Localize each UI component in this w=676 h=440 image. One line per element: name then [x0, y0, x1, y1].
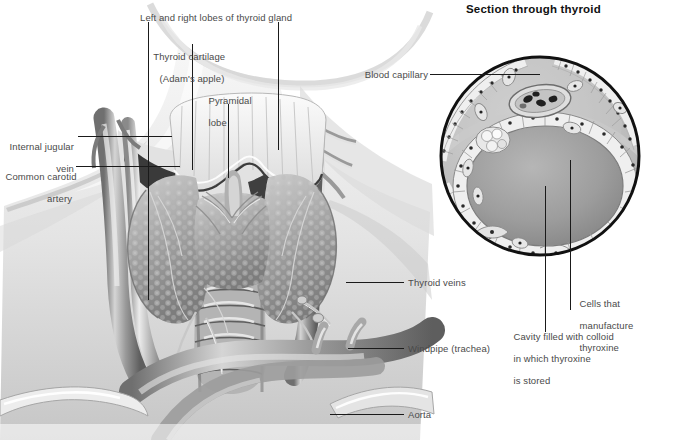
label-thyroid-cartilage-line2: (Adam's apple): [153, 73, 224, 84]
thyroid-section-inset: [438, 54, 642, 268]
label-pyramidal-lobe-line1: Pyramidal: [208, 95, 251, 106]
label-cavity-line1: Cavity filled with colloid: [513, 331, 613, 342]
label-cells-line1: Cells that: [579, 298, 620, 309]
label-blood-capillary: Blood capillary: [330, 69, 428, 80]
label-pyramidal-lobe-line2: lobe: [208, 117, 226, 128]
label-common-carotid-artery: Common carotid artery: [0, 160, 72, 204]
label-thyroid-lobes: Left and right lobes of thyroid gland: [140, 12, 292, 23]
label-common-carotid-line1: Common carotid: [5, 171, 76, 182]
label-thyroid-cartilage-line1: Thyroid cartilage: [153, 51, 225, 62]
label-windpipe-trachea: Windpipe (trachea): [408, 343, 490, 354]
label-cavity-line2: in which thyroxine: [513, 353, 590, 364]
illustration-canvas: Section through thyroid Internal jugular…: [0, 0, 676, 440]
label-pyramidal-lobe: Pyramidal lobe: [203, 84, 252, 128]
label-thyroid-veins: Thyroid veins: [408, 277, 466, 288]
label-internal-jugular-line1: Internal jugular: [10, 141, 74, 152]
inset-title: Section through thyroid: [466, 3, 601, 15]
label-cavity-line3: is stored: [513, 375, 550, 386]
label-colloid-cavity: Cavity filled with colloid in which thyr…: [508, 320, 614, 386]
label-common-carotid-line2: artery: [47, 193, 72, 204]
label-thyroid-cartilage: Thyroid cartilage (Adam's apple): [148, 40, 225, 84]
parafollicular-cell-cluster: [476, 127, 510, 153]
label-aorta: Aorta: [408, 409, 431, 420]
